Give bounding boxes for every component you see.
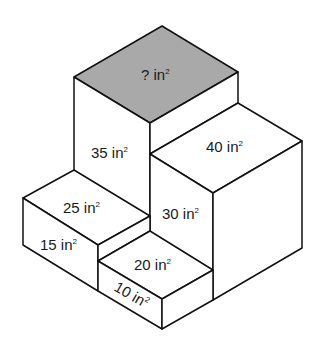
label-left-front: 15 in2 xyxy=(40,236,78,253)
label-small-top: 20 in2 xyxy=(134,256,172,273)
label-tall-front: 35 in2 xyxy=(91,144,129,161)
label-left-top: 25 in2 xyxy=(63,199,101,216)
label-right-side: 30 in2 xyxy=(162,205,200,222)
isometric-prism-diagram: ? in2 35 in2 40 in2 25 in2 30 in2 15 in2… xyxy=(0,0,321,357)
label-right-top: 40 in2 xyxy=(206,138,244,155)
